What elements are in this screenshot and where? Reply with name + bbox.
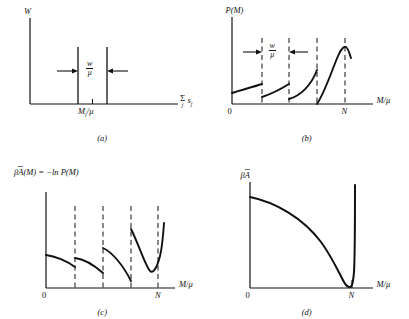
panel-c-branch-2	[75, 258, 103, 273]
panel-b-arrow-right	[289, 50, 308, 55]
panel-a-x-label: Σ j sj	[180, 94, 192, 108]
panel-a-arrow-left	[57, 68, 78, 73]
panel-a-x-label-sigma-group: Σ j	[180, 94, 185, 108]
panel-a-y-label: W	[24, 7, 31, 16]
panel-a-x-label-sigma-sub: j	[180, 103, 185, 109]
panel-d-curve	[250, 185, 355, 287]
panel-c: β∼A(M) = −ln P(M) 0 N M/μ (c)	[0, 160, 205, 319]
panel-d-tick-label-n: N	[349, 291, 355, 300]
panel-b-x-label: M/μ	[377, 96, 391, 105]
panel-c-y-label-tilde: ∼	[17, 163, 24, 171]
panel-a-band-denominator: μ	[86, 69, 93, 77]
panel-a-tick-label: Mi/μ	[78, 107, 93, 118]
panel-b-caption: (b)	[205, 134, 409, 143]
figure-container: W w μ Mi/μ Σ j sj (a)	[0, 0, 409, 319]
panel-c-branch-3	[103, 248, 131, 281]
panel-c-branch-4	[131, 223, 164, 272]
panel-a-tick-label-tail: /μ	[87, 106, 94, 116]
panel-a: W w μ Mi/μ Σ j sj (a)	[0, 0, 205, 160]
panel-a-arrow-right	[107, 68, 128, 73]
panel-d-y-label: β∼A	[241, 171, 250, 180]
panel-c-origin-label: 0	[42, 291, 46, 300]
panel-a-x-label-term-sub: j	[191, 100, 193, 106]
panel-d-x-label: M/μ	[377, 280, 391, 289]
panel-c-x-label: M/μ	[179, 280, 193, 289]
panel-a-x-label-term: sj	[187, 95, 192, 105]
panel-c-caption: (c)	[0, 308, 205, 317]
panel-c-branch-1	[46, 255, 75, 267]
panel-d: β∼A 0 N M/μ (d)	[205, 160, 409, 319]
panel-c-y-label: β∼A(M) = −ln P(M)	[14, 168, 79, 177]
panel-b-band-denominator: μ	[269, 51, 276, 59]
panel-b-branch-2	[262, 84, 289, 97]
panel-d-origin-label: 0	[246, 291, 250, 300]
panel-c-y-label-rest: (M) = −ln P(M)	[23, 167, 78, 177]
panel-b-arrow-left	[243, 50, 262, 55]
panel-d-plot	[205, 160, 409, 319]
panel-b-origin-label: 0	[228, 107, 232, 116]
panel-b-band-annotation: w μ	[269, 42, 276, 60]
panel-d-y-label-a-group: ∼A	[245, 171, 250, 180]
panel-a-band-annotation: w μ	[86, 60, 93, 78]
panel-b-tick-label-n: N	[342, 107, 348, 116]
panel-d-caption: (d)	[205, 308, 409, 317]
panel-c-tick-label-n: N	[155, 291, 161, 300]
panel-c-y-label-a-group: ∼A	[18, 168, 23, 177]
panel-b: P(M) w μ 0 N M/μ (b)	[205, 0, 409, 160]
panel-b-y-label: P(M)	[226, 6, 244, 15]
panel-a-caption: (a)	[0, 134, 205, 143]
panel-b-branch-3	[289, 70, 317, 99]
panel-c-plot	[0, 160, 204, 319]
panel-d-y-label-tilde: ∼	[244, 166, 251, 174]
panel-b-branch-4	[317, 47, 351, 104]
panel-b-branch-1	[232, 84, 262, 93]
